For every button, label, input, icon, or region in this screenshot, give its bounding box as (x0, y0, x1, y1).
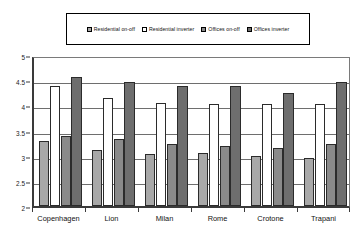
y-tick-mark (26, 182, 30, 183)
x-tick-mark (85, 208, 86, 212)
bar (92, 150, 103, 206)
x-category-label: Rome (208, 214, 228, 223)
bar (283, 93, 294, 206)
bars-layer (34, 58, 349, 206)
bar (251, 156, 262, 206)
bar (124, 82, 135, 206)
x-category-label: Trapani (311, 214, 336, 223)
x-tick-mark (138, 208, 139, 212)
legend-swatch-icon (142, 27, 147, 32)
legend-entry[interactable]: Offices inverter (247, 26, 290, 32)
bar (326, 144, 337, 206)
bar (177, 86, 188, 206)
y-tick-label: 3.5 (16, 129, 25, 136)
chart-legend: Residential on-offResidential inverterOf… (66, 13, 310, 45)
y-tick-mark (26, 208, 30, 209)
x-tick-mark (244, 208, 245, 212)
x-tick-mark (349, 208, 350, 212)
legend-entry[interactable]: Residential on-off (87, 26, 135, 32)
bar (315, 104, 326, 206)
bar (156, 103, 167, 206)
bar (114, 139, 125, 206)
x-category-label: Copenhagen (37, 214, 79, 223)
bar (273, 148, 284, 206)
bar (71, 77, 82, 206)
x-category-label: Lion (105, 214, 119, 223)
x-tick-mark (297, 208, 298, 212)
bar (145, 154, 156, 206)
bar (230, 86, 241, 206)
bar (336, 82, 347, 206)
y-tick-mark (26, 82, 30, 83)
x-category-label: Milan (156, 214, 174, 223)
y-tick-label: 2.5 (16, 179, 25, 186)
bar (167, 144, 178, 206)
legend-item-list: Residential on-offResidential inverterOf… (87, 26, 290, 32)
y-tick-label: 3 (21, 154, 25, 161)
legend-label: Offices inverter (254, 26, 290, 32)
bar (304, 158, 315, 206)
bar-chart: Residential on-offResidential inverterOf… (0, 0, 363, 232)
legend-label: Residential inverter (149, 26, 194, 32)
x-tick-mark (32, 208, 33, 212)
legend-swatch-icon (247, 27, 252, 32)
y-tick-label: 4 (21, 104, 25, 111)
legend-swatch-icon (201, 27, 206, 32)
legend-label: Residential on-off (94, 26, 135, 32)
bar (198, 153, 209, 206)
bar (220, 146, 231, 206)
x-tick-mark (191, 208, 192, 212)
bar (103, 98, 114, 206)
y-tick-label: 5 (21, 54, 25, 61)
y-tick-label: 2 (21, 205, 25, 212)
legend-entry[interactable]: Residential inverter (142, 26, 194, 32)
x-category-label: Crotone (257, 214, 283, 223)
legend-swatch-icon (87, 27, 92, 32)
bar (50, 86, 61, 206)
y-tick-mark (26, 157, 30, 158)
bar (61, 136, 72, 206)
y-axis: 22.533.544.55 (0, 57, 30, 208)
plot-area (32, 57, 350, 208)
bar (39, 141, 50, 206)
y-tick-label: 4.5 (16, 79, 25, 86)
x-axis: CopenhagenLionMilanRomeCrotoneTrapani (32, 208, 350, 230)
y-tick-mark (26, 132, 30, 133)
y-tick-mark (26, 107, 30, 108)
bar (262, 104, 273, 206)
y-tick-mark (26, 57, 30, 58)
legend-entry[interactable]: Offices on-off (201, 26, 239, 32)
legend-label: Offices on-off (208, 26, 239, 32)
bar (209, 104, 220, 206)
